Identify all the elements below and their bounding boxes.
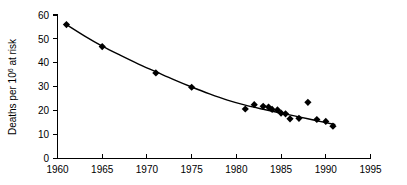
y-tick-label-40: 40 [38, 57, 50, 68]
y-axis-group: 0102030405060 [38, 10, 58, 165]
fitted-trend-curve [66, 25, 334, 125]
chart-container: 0102030405060 19601965197019751980198519… [0, 0, 407, 185]
deaths-per-million-scatter-chart: 0102030405060 19601965197019751980198519… [0, 0, 407, 185]
y-tick-label-50: 50 [38, 34, 50, 45]
x-tick-label-1975: 1975 [181, 164, 204, 175]
y-tick-label-20: 20 [38, 105, 50, 116]
y-tick-label-60: 60 [38, 10, 50, 21]
x-tick-label-1985: 1985 [270, 164, 293, 175]
data-point [282, 110, 289, 117]
data-point [286, 115, 293, 122]
x-tick-label-1980: 1980 [225, 164, 248, 175]
y-tick-label-30: 30 [38, 81, 50, 92]
data-point [63, 21, 70, 28]
y-axis-tick-labels: 0102030405060 [38, 10, 50, 165]
x-tick-label-1990: 1990 [315, 164, 338, 175]
data-point [322, 118, 329, 125]
data-point [304, 99, 311, 106]
y-tick-label-10: 10 [38, 129, 50, 140]
y-axis-ticks [53, 15, 58, 159]
x-axis-group: 19601965197019751980198519901995 [46, 154, 382, 176]
x-tick-label-1995: 1995 [359, 164, 382, 175]
x-tick-label-1960: 1960 [46, 164, 69, 175]
x-tick-label-1965: 1965 [91, 164, 114, 175]
y-axis-title: Deaths per 106 at risk [7, 38, 18, 135]
y-tick-label-0: 0 [43, 153, 49, 164]
data-point-markers [63, 21, 337, 130]
data-point [313, 116, 320, 123]
x-axis-ticks [58, 154, 371, 159]
data-point [188, 84, 195, 91]
x-axis-tick-labels: 19601965197019751980198519901995 [46, 164, 382, 175]
x-tick-label-1970: 1970 [136, 164, 159, 175]
